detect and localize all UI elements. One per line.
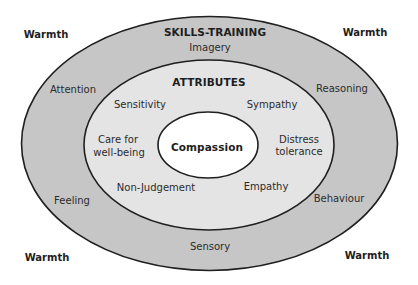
attributes-title: ATTRIBUTES [172,76,245,88]
skills-training-title: SKILLS-TRAINING [164,26,266,38]
skill-imagery: Imagery [189,42,230,54]
warmth-top-left: Warmth [24,29,69,41]
skill-sensory: Sensory [190,241,230,253]
skill-attention: Attention [50,84,96,96]
attribute-sensitivity: Sensitivity [114,99,166,111]
attribute-empathy: Empathy [244,181,289,193]
attribute-sympathy: Sympathy [247,99,298,111]
attribute-distress-line1: Distress [279,134,319,146]
warmth-top-right: Warmth [343,27,388,39]
skill-feeling: Feeling [54,195,90,207]
warmth-bottom-left: Warmth [25,252,70,264]
core-compassion: Compassion [171,141,243,153]
skill-behaviour: Behaviour [314,193,365,205]
attribute-distress-line2: tolerance [275,146,322,158]
warmth-bottom-right: Warmth [345,250,390,262]
skill-reasoning: Reasoning [316,83,368,95]
attribute-care-line1: Care for [98,134,138,146]
attribute-care-line2: well-being [93,147,144,159]
attribute-non-judgement: Non-Judgement [117,182,195,194]
